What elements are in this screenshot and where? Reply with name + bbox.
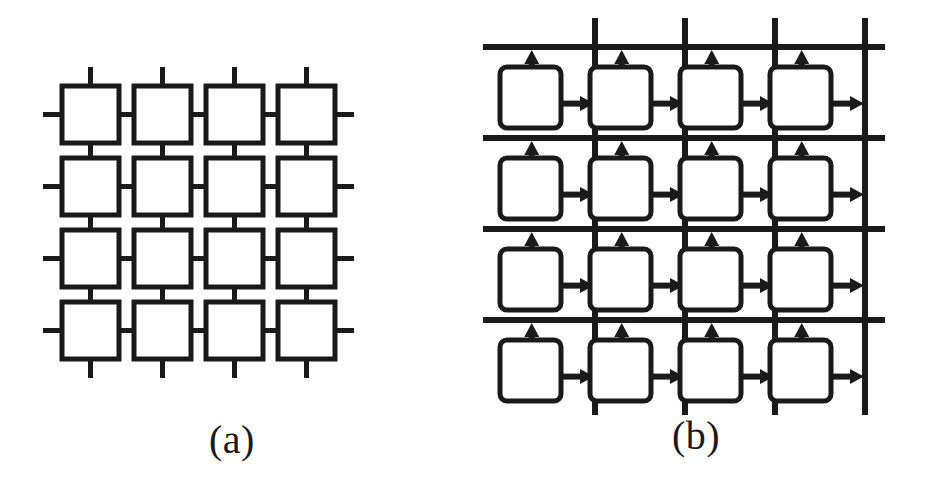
bus-grid-node (770, 249, 831, 310)
up-arrow-head (524, 141, 539, 155)
mesh-node (62, 230, 119, 287)
up-arrow (614, 50, 629, 67)
mesh-node (62, 302, 119, 359)
up-arrow (794, 141, 809, 158)
panel-b-bus-grid: (b) (464, 0, 928, 497)
bus-grid-node (590, 67, 651, 128)
mesh-node (134, 158, 191, 215)
up-arrow-head (614, 50, 629, 64)
bus-grid-node (680, 249, 741, 310)
up-arrow (524, 232, 539, 249)
right-arrow (831, 369, 864, 384)
up-arrow (524, 50, 539, 67)
bus-grid-node (500, 249, 561, 310)
figure-root: (a) (b) (0, 0, 928, 497)
up-arrow-head (704, 50, 719, 64)
up-arrow-head (704, 141, 719, 155)
mesh-node (278, 86, 335, 143)
mesh-node (62, 158, 119, 215)
bus-grid-node (500, 158, 561, 219)
up-arrow-head (704, 323, 719, 337)
up-arrow (794, 50, 809, 67)
mesh-node (134, 302, 191, 359)
up-arrow-head (614, 232, 629, 246)
mesh-node (206, 86, 263, 143)
up-arrow-head (614, 323, 629, 337)
up-arrow-head (524, 50, 539, 64)
up-arrow-head (794, 232, 809, 246)
bus-grid-node (770, 158, 831, 219)
panel-b-caption: (b) (464, 416, 928, 456)
up-arrow-head (524, 232, 539, 246)
mesh-node (134, 86, 191, 143)
bus-grid-node (680, 67, 741, 128)
right-arrow-head (850, 278, 864, 293)
panel-a-caption: (a) (0, 420, 464, 460)
up-arrow (794, 232, 809, 249)
up-arrow-head (794, 323, 809, 337)
up-arrow-head (794, 141, 809, 155)
up-arrow (614, 141, 629, 158)
right-arrow (831, 187, 864, 202)
up-arrow (524, 323, 539, 340)
mesh-topology-diagram (0, 0, 464, 410)
panel-a-mesh: (a) (0, 0, 464, 497)
up-arrow-head (524, 323, 539, 337)
mesh-node (134, 230, 191, 287)
up-arrow (704, 323, 719, 340)
up-arrow (794, 323, 809, 340)
bus-grid-topology-diagram (464, 0, 928, 430)
right-arrow (831, 278, 864, 293)
up-arrow (704, 141, 719, 158)
up-arrow (704, 50, 719, 67)
mesh-node (278, 302, 335, 359)
bus-grid-node (590, 158, 651, 219)
mesh-node (278, 230, 335, 287)
mesh-node (206, 302, 263, 359)
mesh-node (62, 86, 119, 143)
mesh-node (278, 158, 335, 215)
up-arrow (614, 323, 629, 340)
right-arrow-head (850, 96, 864, 111)
bus-grid-node (500, 67, 561, 128)
up-arrow-head (794, 50, 809, 64)
up-arrow-head (704, 232, 719, 246)
bus-grid-node (500, 340, 561, 401)
up-arrow-head (614, 141, 629, 155)
bus-grid-node (680, 158, 741, 219)
bus-grid-node (590, 249, 651, 310)
bus-grid-node (590, 340, 651, 401)
bus-grid-node (680, 340, 741, 401)
up-arrow (704, 232, 719, 249)
bus-grid-node (770, 340, 831, 401)
bus-grid-node (770, 67, 831, 128)
up-arrow (614, 232, 629, 249)
mesh-node (206, 158, 263, 215)
up-arrow (524, 141, 539, 158)
right-arrow-head (850, 187, 864, 202)
right-arrow (831, 96, 864, 111)
mesh-node (206, 230, 263, 287)
right-arrow-head (850, 369, 864, 384)
